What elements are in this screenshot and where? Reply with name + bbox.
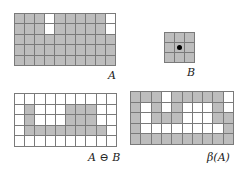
cell-foreground	[185, 33, 195, 43]
cell-foreground	[106, 56, 116, 66]
cell-foreground	[131, 113, 141, 124]
cell-foreground	[165, 43, 175, 53]
cell-foreground	[152, 92, 162, 103]
grid-B	[164, 32, 195, 63]
cell-background	[35, 105, 45, 116]
cell-background	[107, 136, 117, 147]
cell-foreground	[45, 35, 55, 45]
cell-foreground	[35, 56, 45, 66]
cell-foreground	[45, 56, 55, 66]
cell-foreground	[86, 24, 96, 34]
cell-foreground	[152, 103, 162, 114]
cell-foreground	[35, 45, 45, 55]
cell-background	[45, 14, 55, 24]
cell-foreground	[66, 24, 76, 34]
cell-background	[45, 24, 55, 34]
cell-foreground	[25, 45, 35, 55]
cell-background	[15, 126, 25, 137]
cell-foreground	[15, 24, 25, 34]
cell-background	[46, 105, 56, 116]
cell-foreground	[165, 53, 175, 63]
cell-foreground	[152, 134, 162, 145]
cell-foreground	[66, 45, 76, 55]
grid-boundary	[130, 91, 234, 145]
cell-background	[106, 24, 116, 34]
cell-foreground	[203, 92, 213, 103]
cell-background	[107, 94, 117, 105]
cell-foreground	[15, 14, 25, 24]
cell-foreground	[76, 105, 86, 116]
cell-background	[193, 113, 203, 124]
cell-foreground	[86, 105, 96, 116]
cell-foreground	[172, 113, 182, 124]
cell-foreground	[35, 35, 45, 45]
cell-foreground	[66, 105, 76, 116]
label-A: A	[108, 69, 116, 82]
cell-foreground	[172, 103, 182, 114]
cell-background	[66, 94, 76, 105]
cell-background	[107, 115, 117, 126]
cell-background	[193, 103, 203, 114]
cell-foreground	[66, 126, 76, 137]
cell-foreground	[193, 92, 203, 103]
cell-foreground	[25, 56, 35, 66]
cell-foreground	[213, 103, 223, 114]
cell-foreground	[25, 105, 35, 116]
cell-background	[97, 115, 107, 126]
cell-foreground	[106, 35, 116, 45]
cell-foreground	[224, 124, 234, 135]
cell-foreground	[15, 35, 25, 45]
cell-foreground	[97, 126, 107, 137]
cell-background	[46, 94, 56, 105]
cell-background	[152, 124, 162, 135]
cell-background	[183, 113, 193, 124]
cell-background	[56, 94, 66, 105]
cell-background	[141, 113, 151, 124]
cell-foreground	[172, 92, 182, 103]
cell-background	[46, 115, 56, 126]
cell-foreground	[213, 113, 223, 124]
cell-background	[56, 105, 66, 116]
cell-foreground	[15, 45, 25, 55]
cell-foreground	[224, 134, 234, 145]
cell-foreground	[213, 92, 223, 103]
cell-foreground	[76, 56, 86, 66]
cell-background	[25, 94, 35, 105]
cell-background	[76, 94, 86, 105]
cell-background	[66, 136, 76, 147]
cell-foreground	[55, 24, 65, 34]
cell-foreground	[56, 126, 66, 137]
cell-foreground	[25, 35, 35, 45]
cell-foreground	[66, 56, 76, 66]
cell-foreground	[76, 24, 86, 34]
cell-foreground	[141, 92, 151, 103]
cell-background	[224, 103, 234, 114]
cell-foreground	[66, 35, 76, 45]
cell-background	[15, 105, 25, 116]
cell-foreground	[185, 53, 195, 63]
cell-foreground	[213, 134, 223, 145]
cell-background	[193, 124, 203, 135]
cell-background	[141, 124, 151, 135]
cell-foreground	[66, 115, 76, 126]
cell-foreground	[131, 124, 141, 135]
cell-foreground	[224, 113, 234, 124]
cell-foreground	[86, 14, 96, 24]
cell-foreground	[162, 113, 172, 124]
cell-foreground	[152, 113, 162, 124]
cell-foreground	[131, 103, 141, 114]
cell-background	[15, 136, 25, 147]
cell-background	[25, 136, 35, 147]
cell-foreground	[175, 43, 185, 53]
cell-background	[106, 14, 116, 24]
cell-background	[15, 115, 25, 126]
cell-foreground	[183, 134, 193, 145]
cell-background	[56, 136, 66, 147]
cell-foreground	[55, 35, 65, 45]
cell-foreground	[76, 115, 86, 126]
cell-foreground	[35, 126, 45, 137]
cell-background	[35, 115, 45, 126]
cell-foreground	[25, 24, 35, 34]
cell-foreground	[25, 115, 35, 126]
cell-background	[15, 94, 25, 105]
